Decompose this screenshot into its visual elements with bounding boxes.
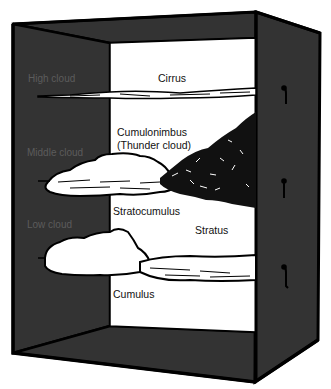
cloud-label-cumulonimbus-note: (Thunder cloud): [117, 139, 191, 151]
cloud-label-stratocumulus: Stratocumulus: [113, 205, 180, 217]
cloud-label-stratus: Stratus: [195, 224, 228, 236]
cloud-label-cumulus: Cumulus: [113, 288, 154, 300]
cloud-box-diagram: [0, 0, 331, 389]
altitude-label-high: High cloud: [28, 73, 75, 85]
altitude-label-low: Low cloud: [27, 219, 72, 231]
cloud-label-cirrus: Cirrus: [158, 72, 186, 84]
stratus-cloud-shape: [140, 255, 256, 281]
box-right-side: [255, 12, 320, 382]
altitude-label-middle: Middle cloud: [27, 147, 83, 159]
cloud-label-cumulonimbus: Cumulonimbus: [117, 126, 187, 138]
